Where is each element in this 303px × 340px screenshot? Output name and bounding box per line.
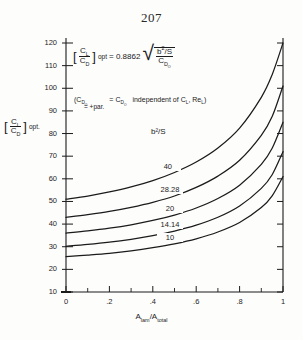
bracket-close: ] [23, 119, 27, 134]
y-tick-label: 40 [35, 219, 57, 228]
formula-radical: √ b2/S CDO [142, 45, 175, 67]
y-tick-label: 100 [35, 83, 57, 92]
y-tick-label: 120 [35, 38, 57, 47]
curve-label-20: 20 [157, 204, 183, 213]
note-open-group: (CDO = +par. [74, 96, 87, 105]
y-tick-label: 60 [35, 174, 57, 183]
formula-annotation: [ CL CD ] opt = 0.8862 √ b2/S CDO [73, 45, 175, 67]
formula-ld-fraction: CL CD [79, 47, 91, 65]
note-annotation: (CDO = +par. = CDO independent of CL, Re… [74, 96, 206, 105]
formula-bracket-close: ] [92, 49, 96, 64]
curve-label-40: 40 [155, 162, 181, 171]
y-tick-label: 90 [35, 106, 57, 115]
document-page: 207 [ CL CD ] opt. [ CL CD ] opt = 0.886… [0, 0, 303, 340]
y-tick-label: 10 [35, 287, 57, 296]
radical-sign-icon: √ [142, 45, 154, 67]
x-tick-label: .6 [186, 297, 206, 306]
note-tail-group: independent of CL, ReL) [132, 96, 206, 103]
x-tick-label: .4 [143, 297, 163, 306]
y-axis-denominator: CD [10, 127, 22, 135]
radicand-fraction: b2/S CDO [156, 48, 173, 67]
x-axis-title: Alam/Atotal [0, 312, 303, 321]
formula-equals-coefficient: = 0.8862 [109, 52, 140, 61]
curve-series-20 [66, 122, 283, 233]
bracket-open: [ [4, 119, 8, 134]
x-tick-label: 0 [56, 297, 76, 306]
curve-label-28.28: 28.28 [157, 185, 183, 194]
x-tick-label: 1 [273, 297, 293, 306]
note-mid-group: = CDO [109, 96, 126, 105]
formula-bracket-open: [ [73, 49, 77, 64]
note-mid-sub: DO [120, 100, 126, 105]
formula-ld-denominator: CD [79, 57, 91, 65]
note-under-label: = +par. [84, 103, 104, 110]
radicand-den-sub: DO [164, 61, 171, 67]
y-tick-label: 30 [35, 242, 57, 251]
y-tick-label: 110 [35, 61, 57, 70]
curve-label-14.14: 14.14 [157, 220, 183, 229]
x-tick-label: .2 [99, 297, 119, 306]
y-tick-label: 80 [35, 129, 57, 138]
y-tick-label: 50 [35, 196, 57, 205]
y-tick-label: 70 [35, 151, 57, 160]
y-axis-fraction: CL CD [10, 118, 22, 136]
radicand-denominator: CDO [156, 57, 173, 67]
radical-body: b2/S CDO [154, 47, 175, 67]
y-tick-label: 20 [35, 264, 57, 273]
formula-opt-label: opt [98, 53, 107, 60]
curve-label-10: 10 [157, 233, 183, 242]
x-tick-label: .8 [230, 297, 250, 306]
series-parameter-header: b²/S [151, 127, 166, 136]
